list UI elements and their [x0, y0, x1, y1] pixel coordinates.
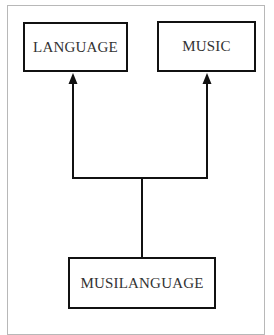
node-musilanguage: MUSILANGUAGE [68, 257, 216, 309]
node-language: LANGUAGE [23, 22, 128, 72]
node-label: LANGUAGE [33, 39, 118, 56]
node-music: MUSIC [157, 21, 256, 72]
node-label: MUSILANGUAGE [80, 275, 203, 292]
node-label: MUSIC [182, 38, 231, 55]
arrowhead-up-icon [69, 73, 78, 84]
arrowhead-up-icon [203, 73, 212, 84]
